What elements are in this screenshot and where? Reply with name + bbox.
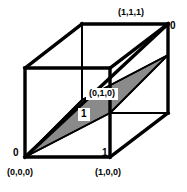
axis-label-one-bottom-right: 1	[102, 148, 108, 158]
axis-label-zero-bottom-left: 0	[13, 148, 19, 158]
edge-depth-bottom-right	[110, 113, 168, 157]
vertex-label-100: (1,0,0)	[95, 168, 121, 177]
cube-diagram: (1,1,1) 0 (0,1,0) 1 0 1 (0,0,0) (1,0,0)	[0, 0, 187, 192]
vertex-label-111: (1,1,1)	[118, 8, 144, 17]
edge-depth-top-left	[25, 24, 82, 68]
axis-label-one-middle: 1	[78, 108, 90, 121]
shaded-plane	[25, 55, 168, 157]
vertex-label-000: (0,0,0)	[7, 168, 33, 177]
axis-label-zero-top: 0	[170, 21, 176, 31]
vertex-label-010: (0,1,0)	[86, 88, 118, 100]
